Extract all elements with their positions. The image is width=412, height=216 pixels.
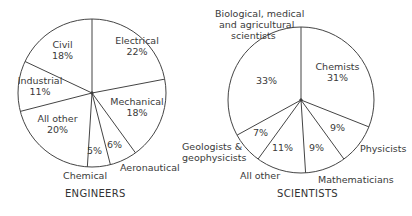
slice-name-mathematicians: Mathematicians: [318, 174, 394, 185]
slice-name-all-other: All other: [240, 170, 280, 181]
slice-pct-bio: 33%: [256, 75, 277, 86]
label-name-line3: scientists: [215, 30, 315, 41]
slice-label-electrical: Electrical 22%: [102, 35, 172, 57]
label-name-line2: and agricultural: [215, 19, 315, 30]
label-name: All other: [30, 113, 85, 124]
label-pct: 22%: [102, 46, 172, 57]
label-pct: 18%: [102, 107, 172, 118]
label-pct: 18%: [45, 50, 80, 61]
slice-pct-mathematicians: 9%: [309, 142, 324, 153]
label-name: Electrical: [102, 35, 172, 46]
scientists-title: SCIENTISTS: [277, 188, 338, 199]
slice-pct-geologists: 7%: [253, 127, 268, 138]
label-name-line1: Geologists &: [182, 141, 246, 152]
scientists-pie: [228, 27, 374, 173]
slice-label-all-other: All other 20%: [30, 113, 85, 135]
slice-label-chemists: Chemists 31%: [310, 61, 365, 83]
engineers-title: ENGINEERS: [65, 188, 126, 199]
label-pct: 20%: [30, 124, 85, 135]
slice-pct-chemical: 5%: [87, 145, 102, 156]
slice-pct-physicists: 9%: [330, 122, 345, 133]
label-name: Chemists: [310, 61, 365, 72]
label-name: Mechanical: [102, 96, 172, 107]
slice-label-mechanical: Mechanical 18%: [102, 96, 172, 118]
slice-label-industrial: Industrial 11%: [17, 75, 63, 97]
label-name: Industrial: [17, 75, 63, 86]
slice-name-physicists: Physicists: [360, 143, 406, 154]
label-pct: 11%: [17, 86, 63, 97]
slice-pct-all-other: 11%: [272, 142, 293, 153]
label-name-line2: geophysicists: [182, 152, 246, 163]
slice-name-aeronautical: Aeronautical: [120, 162, 180, 173]
slice-label-civil: Civil 18%: [45, 39, 80, 61]
slice-pct-aeronautical: 6%: [107, 139, 122, 150]
slice-name-geologists: Geologists & geophysicists: [182, 141, 246, 163]
label-pct: 31%: [310, 72, 365, 83]
label-name-line1: Biological, medical: [215, 8, 315, 19]
label-name: Civil: [45, 39, 80, 50]
slice-name-chemical: Chemical: [63, 170, 107, 181]
slice-label-bio: Biological, medical and agricultural sci…: [215, 8, 315, 41]
